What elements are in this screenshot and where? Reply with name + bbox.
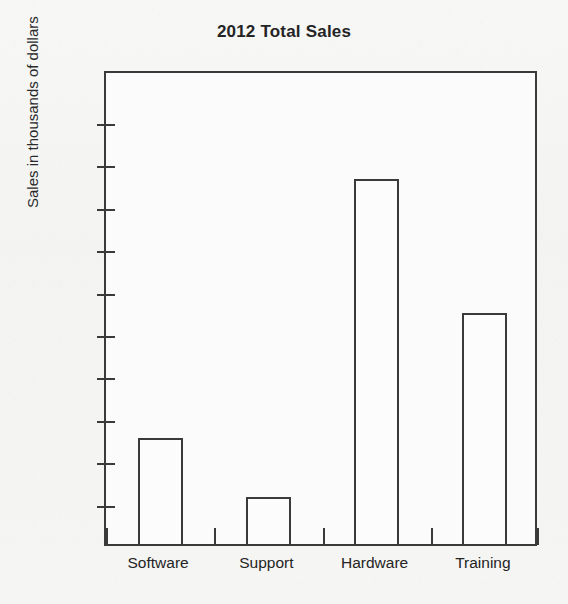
x-axis-tick bbox=[181, 528, 183, 545]
chart-title: 2012 Total Sales bbox=[0, 22, 568, 42]
x-axis-tick bbox=[138, 528, 140, 545]
x-axis-tick bbox=[354, 528, 356, 545]
plot-area: 102030405060708090100 bbox=[104, 71, 537, 546]
x-axis-boundary-tick bbox=[214, 528, 216, 545]
y-axis-tick bbox=[97, 506, 115, 508]
x-axis-tick bbox=[246, 528, 248, 545]
x-axis-tick bbox=[289, 528, 291, 545]
x-axis-category-label: Support bbox=[212, 554, 320, 572]
x-axis-tick bbox=[505, 528, 507, 545]
y-axis-tick bbox=[97, 124, 115, 126]
y-axis-title: Sales in thousands of dollars bbox=[24, 0, 41, 208]
bar-hardware[interactable] bbox=[354, 179, 399, 544]
y-axis-tick bbox=[97, 378, 115, 380]
y-axis-tick bbox=[97, 336, 115, 338]
bar-support[interactable] bbox=[246, 497, 291, 544]
x-axis-boundary-tick bbox=[323, 528, 325, 545]
bar-software[interactable] bbox=[138, 438, 183, 544]
y-axis-tick bbox=[97, 166, 115, 168]
plot-inner: 102030405060708090100 bbox=[106, 73, 535, 544]
x-axis-boundary-tick bbox=[106, 528, 108, 545]
x-axis-tick bbox=[462, 528, 464, 545]
y-axis-tick bbox=[97, 463, 115, 465]
x-axis-category-label: Software bbox=[104, 554, 212, 572]
bar-training[interactable] bbox=[462, 313, 507, 544]
y-axis-tick bbox=[97, 251, 115, 253]
x-axis-boundary-tick bbox=[431, 528, 433, 545]
y-axis-tick bbox=[97, 294, 115, 296]
x-axis-boundary-tick bbox=[537, 528, 539, 545]
y-axis-tick bbox=[97, 209, 115, 211]
y-axis-tick bbox=[97, 421, 115, 423]
x-axis-category-label: Training bbox=[429, 554, 537, 572]
bar-chart: 2012 Total Sales Sales in thousands of d… bbox=[0, 0, 568, 604]
x-axis-category-label: Hardware bbox=[321, 554, 429, 572]
x-axis-tick bbox=[397, 528, 399, 545]
